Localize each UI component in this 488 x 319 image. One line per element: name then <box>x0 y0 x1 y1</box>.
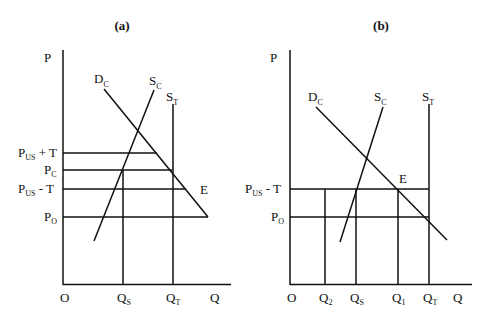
panel-a-x-axis-label: Q <box>210 290 220 305</box>
panel-b-supply-c-curve <box>340 107 383 242</box>
panel-a-origin-label: O <box>60 290 69 305</box>
panel-a-title: (a) <box>114 18 129 33</box>
panel-b-sc-label: SC <box>374 89 387 107</box>
panel-a-pus-minus-t-label: PUS - T <box>18 181 54 198</box>
panel-b-demand-curve <box>316 107 447 240</box>
panel-a-po-label: PO <box>44 209 57 226</box>
panel-b-y-axis-label: P <box>270 50 277 65</box>
panel-a-y-axis-label: P <box>44 50 51 65</box>
panel-a-sc-label: SC <box>149 73 162 91</box>
panel-a: (a) P O Q DC SC ST PUS + T PC PUS - T PO… <box>18 18 231 307</box>
panel-a-qt-label: QT <box>166 290 180 307</box>
panel-a-qs-label: QS <box>117 290 131 307</box>
panel-a-pus-plus-t-label: PUS + T <box>18 145 57 162</box>
panel-a-dc-label: DC <box>94 71 109 89</box>
panel-b-x-axis-label: Q <box>453 290 463 305</box>
panel-b-q2-label: Q2 <box>319 290 332 307</box>
panel-b-pus-minus-t-label: PUS - T <box>245 181 281 198</box>
panel-b-qt-label: QT <box>423 290 437 307</box>
panel-a-st-label: ST <box>166 89 178 107</box>
diagram-canvas: (a) P O Q DC SC ST PUS + T PC PUS - T PO… <box>0 0 488 319</box>
panel-b-q1-label: Q1 <box>392 290 405 307</box>
panel-b-title: (b) <box>373 18 389 33</box>
panel-b-po-label: PO <box>271 209 284 226</box>
panel-b-st-label: ST <box>422 89 434 107</box>
panel-a-pc-label: PC <box>44 162 57 179</box>
panel-b-point-e-label: E <box>399 171 407 186</box>
panel-b-origin-label: O <box>287 290 296 305</box>
panel-b-qs-label: QS <box>350 290 364 307</box>
panel-b: (b) P O Q DC SC ST PUS - T PO Q2 QS Q1 Q… <box>245 18 472 307</box>
panel-b-dc-label: DC <box>308 89 323 107</box>
panel-a-point-e-label: E <box>200 182 208 197</box>
